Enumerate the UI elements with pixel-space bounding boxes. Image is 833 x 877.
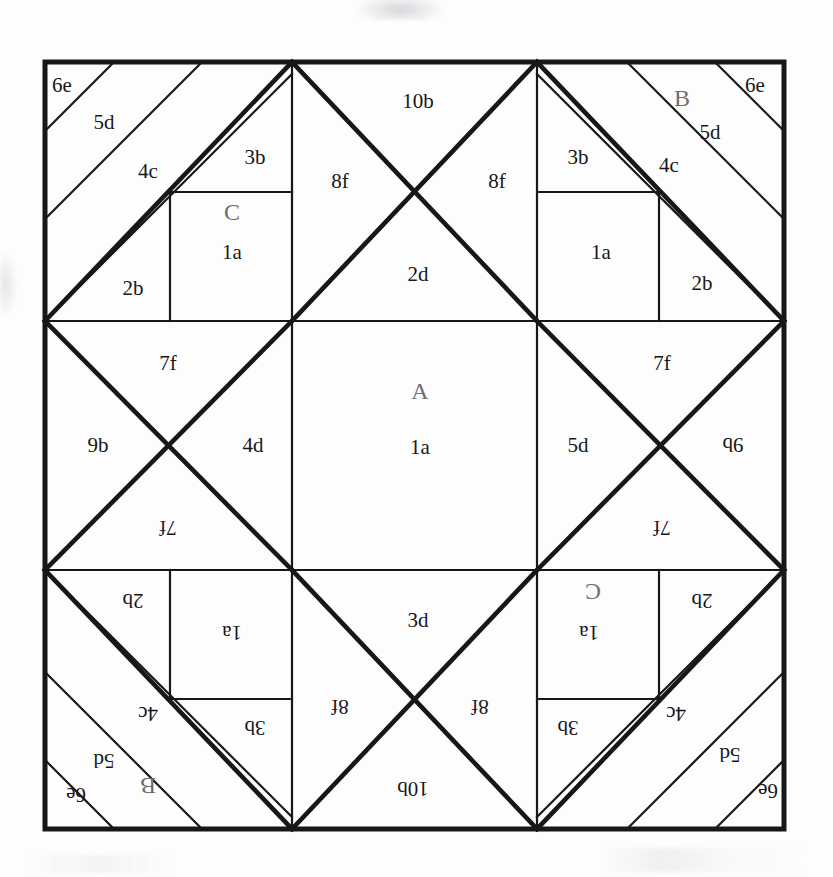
- piece-label-tc-8fR: 8f: [488, 169, 506, 193]
- piece-label-mc-A: A: [411, 378, 429, 404]
- piece-label-bl-4c: 4c: [138, 702, 158, 726]
- piece-label-tr-3b: 3b: [568, 145, 589, 169]
- piece-label-mr-5d: 5d: [568, 433, 590, 457]
- piece-label-bc-8fR: 8f: [471, 695, 489, 719]
- piece-label-tr-2b: 2b: [692, 271, 713, 295]
- piece-label-ml-7f: 7f: [159, 351, 177, 375]
- piece-label-tl-3b: 3b: [245, 145, 266, 169]
- piece-label-br-5d: 5d: [719, 743, 741, 767]
- piece-label-tl-6e: 6e: [52, 73, 72, 97]
- piece-label-br-6e: 6e: [758, 779, 778, 803]
- piece-label-bc-10b: 10b: [397, 777, 429, 801]
- piece-label-tc-2d: 2d: [408, 262, 430, 286]
- piece-label-br-2b: 2b: [692, 589, 713, 613]
- piece-label-tl-5d: 5d: [94, 110, 116, 134]
- piece-label-bl-5d: 5d: [93, 749, 115, 773]
- piece-label-br-C: C: [585, 579, 601, 605]
- piece-label-mr-7fr: 7f: [653, 516, 671, 540]
- piece-label-ml-7fr: 7f: [159, 516, 177, 540]
- piece-label-tr-1a: 1a: [591, 240, 612, 264]
- piece-label-bc-8fL: 8f: [331, 695, 349, 719]
- piece-label-mr-9b: 9b: [723, 433, 744, 457]
- piece-label-ml-4d: 4d: [243, 433, 265, 457]
- piece-label-tl-1a: 1a: [222, 240, 243, 264]
- piece-label-br-1a: 1a: [578, 621, 599, 645]
- piece-label-tr-4c: 4c: [659, 153, 679, 177]
- piece-label-tr-5d: 5d: [700, 120, 722, 144]
- piece-label-tr-6e: 6e: [745, 73, 765, 97]
- piece-label-bc-3d: 3d: [408, 608, 430, 632]
- piece-label-bl-2b: 2b: [123, 589, 144, 613]
- diagram-stage: 6e5d4c3bC1a2b10b8f8f2d6eB5d4c3b1a2b7f9b4…: [0, 0, 833, 877]
- piece-label-br-4c: 4c: [666, 702, 686, 726]
- piece-label-tc-10b: 10b: [402, 89, 434, 113]
- piece-label-bl-B: B: [140, 773, 156, 799]
- piece-label-tl-2b: 2b: [123, 276, 144, 300]
- piece-label-br-3b: 3b: [558, 716, 579, 740]
- piece-label-ml-9b: 9b: [88, 433, 109, 457]
- piece-label-tr-B: B: [674, 85, 690, 111]
- piece-label-bl-1a: 1a: [221, 621, 242, 645]
- piece-label-tl-4c: 4c: [138, 159, 158, 183]
- piece-label-tc-8fL: 8f: [331, 169, 349, 193]
- piece-label-mc-1a: 1a: [410, 435, 431, 459]
- piece-label-tl-C: C: [224, 199, 240, 225]
- quilt-block-diagram: 6e5d4c3bC1a2b10b8f8f2d6eB5d4c3b1a2b7f9b4…: [0, 0, 833, 877]
- piece-label-bl-6e: 6e: [66, 783, 86, 807]
- piece-label-mr-7f: 7f: [653, 351, 671, 375]
- piece-label-bl-3b: 3b: [245, 716, 266, 740]
